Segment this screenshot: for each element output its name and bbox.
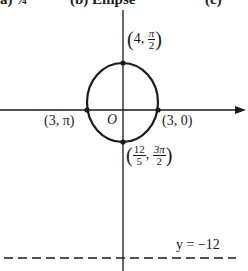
label-top-point: (4, π2) (127, 28, 162, 51)
point-top (120, 60, 125, 65)
point-left (84, 107, 89, 112)
directrix-label: y = −12 (176, 237, 220, 253)
point-right (155, 107, 160, 112)
label-left-point: (3, π) (44, 113, 74, 129)
label-bottom-point: (125, 3π2) (126, 144, 172, 167)
origin-label: O (107, 112, 117, 128)
x-axis-arrow-icon (235, 106, 246, 114)
label-right-point: (3, 0) (162, 113, 192, 129)
point-bottom (120, 139, 125, 144)
polar-graph (0, 0, 248, 271)
